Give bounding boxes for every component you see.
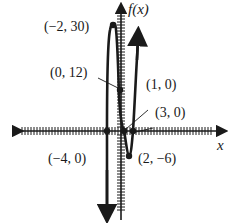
point-3-0 — [130, 128, 136, 134]
y-axis-label: f(x) — [128, 2, 149, 17]
label-neg2-30: (−2, 30) — [44, 20, 89, 34]
polynomial-graph: f(x) x (−2, 30) (0, 12) (1, 0) (3, 0) (−… — [0, 0, 232, 223]
label-3-0: (3, 0) — [155, 106, 185, 120]
label-2-neg6: (2, −6) — [138, 152, 176, 166]
x-axis — [18, 127, 222, 135]
label-0-12: (0, 12) — [50, 66, 87, 80]
label-neg4-0: (−4, 0) — [48, 152, 86, 166]
point-neg4-0 — [104, 128, 110, 134]
point-2-neg6 — [126, 153, 132, 159]
point-neg2-30 — [110, 22, 116, 28]
x-axis-label: x — [217, 138, 224, 153]
label-1-0: (1, 0) — [146, 78, 176, 92]
graph-canvas — [0, 0, 232, 223]
